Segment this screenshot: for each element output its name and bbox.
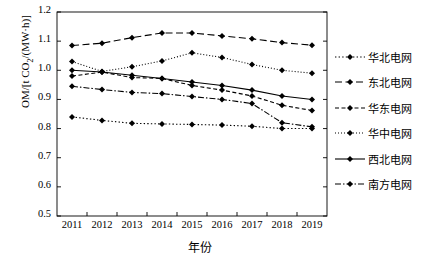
legend-swatch-icon (334, 153, 366, 165)
legend-item-华中电网[interactable]: 华中电网 (334, 121, 432, 147)
data-point (279, 67, 285, 73)
data-point (189, 79, 195, 85)
data-point (129, 120, 135, 126)
data-point (69, 114, 75, 120)
legend-swatch-icon (334, 178, 366, 190)
data-point (99, 69, 105, 75)
legend-swatch-icon (334, 102, 366, 114)
data-point (69, 73, 75, 79)
legend-item-东北电网[interactable]: 东北电网 (334, 70, 432, 96)
data-point (279, 102, 285, 108)
y-tick-1.2: 1.2 (25, 4, 51, 15)
legend-item-华北电网[interactable]: 华北电网 (334, 44, 432, 70)
data-point (129, 64, 135, 70)
data-point (99, 87, 105, 93)
data-point (69, 59, 75, 65)
data-point (219, 33, 225, 39)
y-tick-0.8: 0.8 (25, 121, 51, 132)
legend-swatch-icon (334, 127, 366, 139)
legend-label: 东北电网 (366, 74, 412, 90)
legend-swatch-icon (334, 51, 366, 63)
data-point (159, 121, 165, 127)
data-point (129, 35, 135, 41)
y-tick-1.0: 1.0 (25, 62, 51, 73)
series-1 (69, 30, 315, 49)
data-point (249, 123, 255, 129)
data-point (69, 83, 75, 89)
x-axis-label: 年份 (120, 238, 280, 256)
legend-label: 西北电网 (366, 151, 412, 167)
data-point (69, 43, 75, 49)
data-point (309, 96, 315, 102)
legend-item-西北电网[interactable]: 西北电网 (334, 146, 432, 172)
legend-label: 南方电网 (366, 176, 412, 192)
data-point (189, 121, 195, 127)
legend-label: 华东电网 (366, 100, 412, 116)
series-2 (69, 69, 315, 113)
chart-figure: OM/[t CO2/(MW·h)] 年份 2011201220132014201… (0, 0, 432, 264)
data-point (249, 93, 255, 99)
data-point (159, 58, 165, 64)
data-point (129, 89, 135, 95)
data-point (219, 82, 225, 88)
data-point (309, 42, 315, 48)
data-point (219, 54, 225, 60)
data-point (219, 96, 225, 102)
data-point (309, 108, 315, 114)
legend-swatch-icon (334, 76, 366, 88)
data-point (279, 120, 285, 126)
data-point (189, 50, 195, 56)
legend-label: 华北电网 (366, 49, 412, 65)
data-point (99, 40, 105, 46)
data-point (99, 117, 105, 123)
data-point (279, 126, 285, 132)
legend-item-华东电网[interactable]: 华东电网 (334, 95, 432, 121)
y-tick-0.6: 0.6 (25, 179, 51, 190)
data-point (279, 40, 285, 46)
series-0 (69, 114, 315, 132)
legend-label: 华中电网 (366, 125, 412, 141)
y-tick-1.1: 1.1 (25, 33, 51, 44)
y-tick-0.5: 0.5 (25, 208, 51, 219)
data-point (279, 93, 285, 99)
data-point (189, 30, 195, 36)
data-point (69, 67, 75, 73)
data-point (159, 30, 165, 36)
data-point (249, 36, 255, 42)
data-point (219, 122, 225, 128)
data-point (159, 91, 165, 97)
data-point (249, 87, 255, 93)
y-tick-0.7: 0.7 (25, 150, 51, 161)
data-point (159, 75, 165, 81)
x-tick-2019: 2019 (292, 219, 332, 230)
data-point (309, 70, 315, 76)
data-point (189, 94, 195, 100)
y-tick-0.9: 0.9 (25, 91, 51, 102)
chart-legend: 华北电网东北电网华东电网华中电网西北电网南方电网 (334, 44, 432, 197)
data-point (249, 101, 255, 107)
legend-item-南方电网[interactable]: 南方电网 (334, 172, 432, 198)
data-point (249, 61, 255, 67)
